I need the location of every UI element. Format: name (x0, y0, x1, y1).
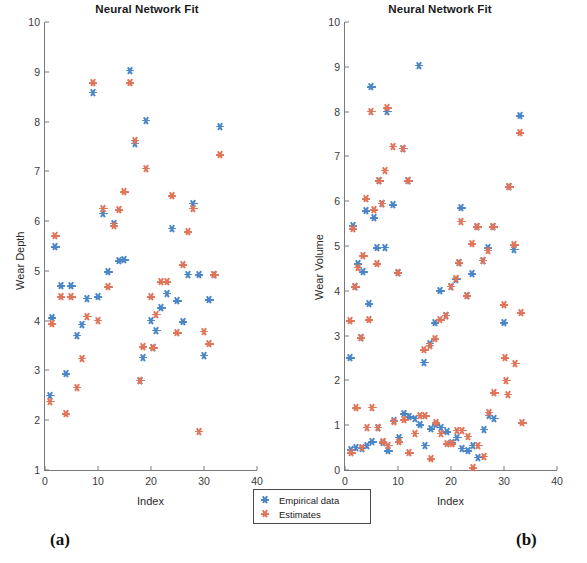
data-point-marker (404, 177, 413, 186)
panel-a-datapoints (45, 22, 257, 470)
data-point-marker (152, 310, 161, 319)
data-point-marker (173, 329, 182, 338)
data-point-marker (72, 383, 81, 392)
data-point-marker (454, 259, 463, 268)
y-axis-tick-mark (45, 420, 49, 421)
data-point-marker (489, 223, 498, 232)
data-point-marker (51, 232, 60, 241)
data-point-marker (372, 259, 381, 268)
data-point-marker (72, 331, 81, 340)
data-point-marker (469, 463, 478, 472)
data-point-marker (88, 79, 97, 88)
data-point-marker (149, 344, 158, 353)
data-point-marker (462, 292, 471, 301)
data-point-marker (346, 354, 355, 363)
data-point-marker (474, 441, 483, 450)
x-axis-tick-label: 0 (342, 470, 348, 487)
data-point-marker (394, 268, 403, 277)
x-axis-tick-label: 40 (251, 470, 263, 487)
data-point-marker (141, 164, 150, 173)
y-axis-tick-mark (345, 201, 349, 202)
data-point-marker (363, 423, 372, 432)
legend-label-empirical: Empirical data (272, 495, 339, 506)
data-point-marker (125, 66, 134, 75)
y-axis-tick-label: 10 (328, 16, 345, 28)
data-point-marker (375, 177, 384, 186)
data-point-marker (479, 425, 488, 434)
caption-b: (b) (516, 530, 537, 550)
y-axis-tick-label: 3 (34, 364, 45, 376)
data-point-marker (415, 61, 424, 70)
data-point-marker (510, 241, 519, 250)
empirical-marker-icon (258, 494, 272, 506)
x-axis-tick-label: 10 (92, 470, 104, 487)
panel-a: Neural Network Fit 12345678910010203040 … (0, 0, 294, 563)
x-axis-tick-label: 20 (145, 470, 157, 487)
data-point-marker (189, 204, 198, 213)
data-point-marker (518, 418, 527, 427)
estimates-marker-icon (258, 508, 272, 520)
data-point-marker (389, 417, 398, 426)
data-point-marker (210, 270, 219, 279)
data-point-marker (468, 239, 477, 248)
data-point-marker (388, 200, 397, 209)
legend-item-empirical: Empirical data (258, 493, 366, 507)
data-point-marker (215, 122, 224, 131)
data-point-marker (347, 448, 356, 457)
data-point-marker (364, 315, 373, 324)
y-axis-tick-mark (345, 425, 349, 426)
data-point-marker (516, 309, 525, 318)
data-point-marker (83, 312, 92, 321)
x-axis-tick-mark (451, 466, 452, 470)
data-point-marker (473, 223, 482, 232)
data-point-marker (200, 327, 209, 336)
data-point-marker (194, 270, 203, 279)
data-point-marker (431, 335, 440, 344)
y-axis-tick-label: 2 (34, 414, 45, 426)
data-point-marker (500, 319, 509, 328)
data-point-marker (139, 353, 148, 362)
data-point-marker (205, 340, 214, 349)
data-point-marker (410, 429, 419, 438)
data-point-marker (426, 454, 435, 463)
data-point-marker (131, 136, 140, 145)
data-point-marker (432, 418, 441, 427)
data-point-marker (383, 104, 392, 113)
data-point-marker (104, 282, 113, 291)
data-point-marker (380, 166, 389, 175)
data-point-marker (178, 318, 187, 327)
x-axis-tick-label: 10 (392, 470, 404, 487)
data-point-marker (147, 292, 156, 301)
y-axis-tick-mark (45, 22, 49, 23)
data-point-marker (162, 277, 171, 286)
y-axis-tick-label: 10 (28, 16, 45, 28)
data-point-marker (136, 376, 145, 385)
y-axis-tick-mark (345, 22, 349, 23)
data-point-marker (511, 359, 520, 368)
data-point-marker (500, 301, 509, 310)
data-point-marker (352, 404, 361, 413)
data-point-marker (405, 448, 414, 457)
x-axis-tick-mark (98, 466, 99, 470)
data-point-marker (399, 144, 408, 153)
x-axis-tick-mark (345, 466, 346, 470)
y-axis-tick-mark (45, 71, 49, 72)
data-point-marker (400, 415, 409, 424)
y-axis-tick-label: 1 (334, 419, 345, 431)
data-point-marker (178, 260, 187, 269)
panel-a-plot-area: 12345678910010203040 (44, 22, 257, 471)
caption-a: (a) (50, 530, 70, 550)
data-point-marker (505, 182, 514, 191)
data-point-marker (515, 129, 524, 138)
figure-container: Neural Network Fit 12345678910010203040 … (0, 0, 587, 563)
data-point-marker (115, 206, 124, 215)
data-point-marker (485, 408, 494, 417)
y-axis-tick-mark (45, 221, 49, 222)
data-point-marker (141, 116, 150, 125)
x-axis-tick-mark (257, 466, 258, 470)
data-point-marker (436, 286, 445, 295)
y-axis-tick-label: 5 (34, 265, 45, 277)
data-point-marker (380, 243, 389, 252)
y-axis-tick-mark (45, 270, 49, 271)
data-point-marker (367, 107, 376, 116)
